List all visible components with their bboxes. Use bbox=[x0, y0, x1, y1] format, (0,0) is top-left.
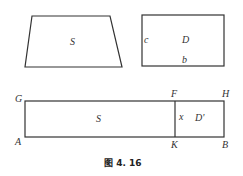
vertex-b: B bbox=[222, 139, 228, 150]
vertex-k: K bbox=[170, 139, 179, 150]
label-x: x bbox=[178, 111, 184, 122]
label-s-top: S bbox=[70, 36, 75, 47]
geometry-figure: S c D b G A F K H B S x D' 图 4. 16 bbox=[0, 0, 243, 176]
label-d: D bbox=[181, 34, 190, 45]
vertex-g: G bbox=[15, 93, 22, 104]
vertex-f: F bbox=[170, 88, 178, 99]
figure-caption: 图 4. 16 bbox=[104, 158, 141, 168]
label-b: b bbox=[182, 54, 187, 65]
vertex-h: H bbox=[221, 88, 230, 99]
vertex-a: A bbox=[14, 136, 22, 147]
label-s-bottom: S bbox=[96, 113, 101, 124]
label-d-prime: D' bbox=[194, 112, 205, 123]
label-c: c bbox=[144, 34, 149, 45]
